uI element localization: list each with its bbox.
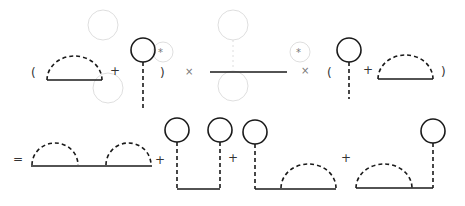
tadpole-diagram-2 xyxy=(337,38,361,99)
times-sign: × xyxy=(185,66,193,77)
loop-circle xyxy=(421,119,445,143)
loop-circle xyxy=(165,118,189,142)
loop-circle xyxy=(131,38,155,62)
ghost-circle xyxy=(153,42,173,62)
dashed-arc xyxy=(32,143,78,165)
ghost-circle xyxy=(218,10,248,40)
loop-circle xyxy=(337,38,361,62)
tadpole-arc-diagram xyxy=(243,120,336,189)
ghost-hatched-circle xyxy=(218,71,248,101)
dashed-arc xyxy=(281,164,336,188)
loop-circle xyxy=(243,120,267,144)
dashed-arc xyxy=(47,56,102,80)
plus-sign: + xyxy=(110,64,120,78)
ghost-hatched-circle xyxy=(88,10,118,40)
dashed-arc xyxy=(378,55,433,79)
double-tadpole-diagram xyxy=(165,118,232,189)
open-paren-2: ( xyxy=(327,66,332,80)
dashed-arc xyxy=(106,143,151,165)
open-paren-1: ( xyxy=(31,66,36,80)
dashed-arc xyxy=(356,164,412,188)
arc-tadpole-diagram xyxy=(356,119,445,188)
bottom-row: = + + + xyxy=(13,118,445,189)
close-paren-1: ) xyxy=(160,66,165,80)
double-arc-diagram xyxy=(31,143,152,166)
close-paren-2: ) xyxy=(441,65,446,79)
plus-sign: + xyxy=(155,153,165,167)
plus-sign: + xyxy=(363,63,373,77)
tadpole-diagram-1 xyxy=(131,38,155,108)
sunset-arc-diagram-2 xyxy=(378,55,433,79)
times-sign: × xyxy=(301,65,309,76)
ghost-star-mark: * xyxy=(296,47,301,58)
equals-sign: = xyxy=(13,152,23,166)
ghost-star-mark: * xyxy=(158,47,163,58)
sunset-arc-diagram-1 xyxy=(47,56,102,80)
feynman-diagram-equation: * * ( + ) × × ( + ) = xyxy=(0,0,465,206)
loop-circle xyxy=(208,118,232,142)
top-row: ( + ) × × ( + ) xyxy=(31,38,446,108)
ghost-circles: * * xyxy=(88,10,310,103)
plus-sign: + xyxy=(228,151,238,165)
plus-sign: + xyxy=(341,151,351,165)
